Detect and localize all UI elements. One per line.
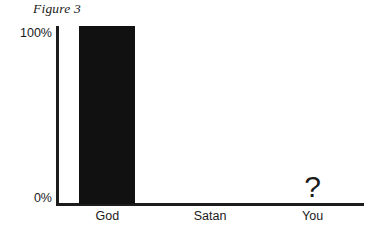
- bar-god: [79, 26, 135, 204]
- y-axis-tick-label-0: 0%: [0, 191, 52, 205]
- x-axis-label-satan: Satan: [194, 209, 227, 224]
- x-axis-label-you: You: [302, 209, 323, 224]
- unknown-value-marker-you: ?: [304, 172, 321, 202]
- y-axis-tick-label-100: 100%: [0, 26, 52, 40]
- figure-container: Figure 3 100% 0% ? God Satan You: [0, 0, 382, 236]
- figure-title: Figure 3: [33, 1, 81, 17]
- x-axis-label-god: God: [96, 209, 120, 224]
